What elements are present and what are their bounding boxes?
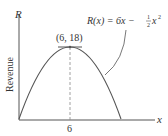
svg-text:2: 2 <box>158 14 161 20</box>
x-tick-6: 6 <box>67 123 72 134</box>
formula-leader <box>105 30 126 75</box>
svg-text:2: 2 <box>147 22 150 28</box>
svg-text:R(x) = 6x −: R(x) = 6x − <box>86 15 135 27</box>
y-axis-label: R <box>14 8 22 20</box>
svg-text:1: 1 <box>147 14 150 20</box>
x-axis-label: x <box>156 113 162 125</box>
function-label: R(x) = 6x − 1 2 x 2 <box>86 14 161 28</box>
vertex-point <box>69 46 71 48</box>
side-label-revenue: Revenue <box>4 56 15 92</box>
peak-label: (6, 18) <box>56 32 83 44</box>
svg-text:x: x <box>151 15 157 26</box>
revenue-chart: R x 6 (6, 18) Revenue R(x) = 6x − 1 2 x … <box>0 0 168 136</box>
